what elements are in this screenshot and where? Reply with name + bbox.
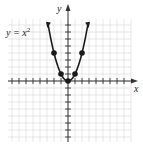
x-axis-label: x (134, 83, 138, 94)
equation-exponent: 2 (27, 26, 31, 34)
parabola-graph (0, 0, 143, 147)
data-point (65, 78, 71, 84)
data-point (72, 71, 78, 77)
equation-label: y = x2 (6, 26, 30, 38)
y-axis-label: y (57, 3, 61, 14)
data-point (51, 50, 57, 56)
data-point (79, 50, 85, 56)
data-point (58, 71, 64, 77)
equation-text: y = x (6, 27, 27, 38)
